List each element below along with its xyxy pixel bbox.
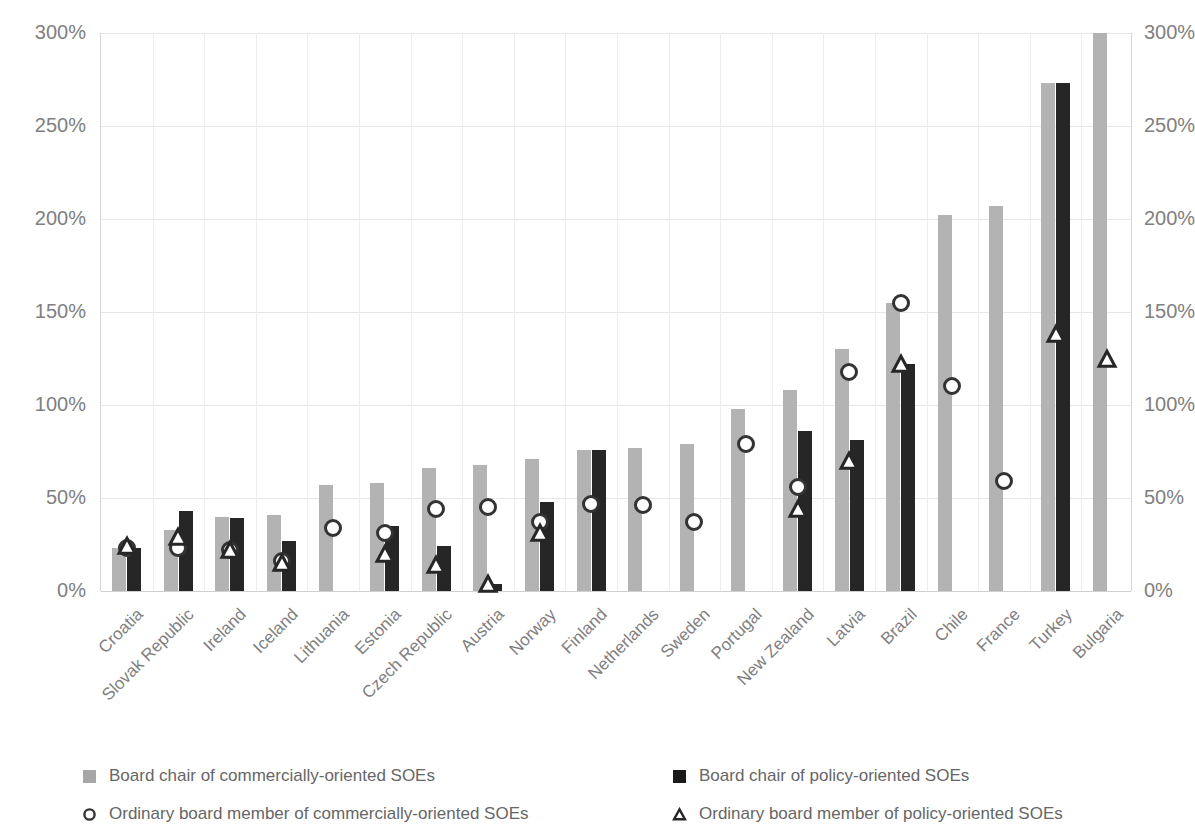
legend-item-label: Board chair of commercially-oriented SOE…	[109, 766, 435, 786]
marker-policy-member-triangle-icon	[890, 353, 912, 375]
legend-item[interactable]: Ordinary board member of commercially-or…	[78, 804, 528, 824]
bar-group	[359, 33, 411, 591]
gridline	[101, 591, 1131, 592]
legend-circle-icon	[82, 807, 97, 822]
chart-legend: Board chair of commercially-oriented SOE…	[0, 760, 1190, 838]
marker-commercial-member-circle-icon	[322, 517, 344, 539]
legend-item-label: Board chair of policy-oriented SOEs	[699, 766, 969, 786]
marker-commercial-member-circle-icon	[838, 361, 860, 383]
marker-policy-member-triangle-icon	[374, 543, 396, 565]
bar-policy-chair	[592, 450, 606, 591]
marker-policy-member-triangle-icon	[529, 522, 551, 544]
bar-group	[669, 33, 721, 591]
y-axis-tick-label-left: 50%	[0, 487, 86, 507]
bar-group	[1030, 33, 1082, 591]
marker-commercial-member-circle-icon	[787, 476, 809, 498]
y-axis-tick-label-right: 150%	[1144, 301, 1195, 321]
marker-commercial-member-circle-icon	[580, 493, 602, 515]
y-axis-tick-label-right: 50%	[1144, 487, 1184, 507]
marker-policy-member-triangle-icon	[838, 450, 860, 472]
bar-commercial-chair	[989, 206, 1003, 591]
legend-item-label: Ordinary board member of policy-oriented…	[699, 804, 1063, 824]
marker-policy-member-triangle-icon	[271, 552, 293, 574]
marker-commercial-member-circle-icon	[632, 494, 654, 516]
marker-commercial-member-circle-icon	[477, 496, 499, 518]
marker-policy-member-triangle-icon	[167, 526, 189, 548]
bar-group	[153, 33, 205, 591]
bar-policy-chair	[901, 364, 915, 591]
marker-policy-member-triangle-icon	[425, 554, 447, 576]
bar-commercial-chair	[577, 450, 591, 591]
marker-policy-member-triangle-icon	[219, 539, 241, 561]
legend-item[interactable]: Board chair of commercially-oriented SOE…	[78, 766, 435, 786]
marker-policy-member-triangle-icon	[116, 535, 138, 557]
legend-item[interactable]: Ordinary board member of policy-oriented…	[668, 804, 1063, 824]
marker-policy-member-triangle-icon	[477, 573, 499, 595]
bar-group	[101, 33, 153, 591]
marker-commercial-member-circle-icon	[941, 375, 963, 397]
y-axis-tick-label-left: 100%	[0, 394, 86, 414]
y-axis-tick-label-left: 200%	[0, 208, 86, 228]
marker-policy-member-triangle-icon	[787, 498, 809, 520]
bar-commercial-chair	[628, 448, 642, 591]
plot-area	[100, 33, 1132, 591]
legend-item[interactable]: Board chair of policy-oriented SOEs	[668, 766, 969, 786]
y-axis-tick-label-left: 150%	[0, 301, 86, 321]
marker-commercial-member-circle-icon	[993, 470, 1015, 492]
bar-group	[514, 33, 566, 591]
legend-square-light-icon	[83, 770, 96, 783]
bar-group	[875, 33, 927, 591]
bar-group	[565, 33, 617, 591]
bar-commercial-chair	[938, 215, 952, 591]
bar-group	[720, 33, 772, 591]
bar-group	[772, 33, 824, 591]
legend-square-dark-icon	[673, 770, 686, 783]
legend-marker	[668, 804, 690, 824]
bar-commercial-chair	[886, 303, 900, 591]
marker-commercial-member-circle-icon	[735, 433, 757, 455]
y-axis-tick-label-right: 0%	[1144, 580, 1173, 600]
bar-group	[204, 33, 256, 591]
legend-marker	[668, 766, 690, 786]
bar-group	[256, 33, 308, 591]
legend-item-label: Ordinary board member of commercially-or…	[109, 804, 528, 824]
marker-policy-member-triangle-icon	[1045, 323, 1067, 345]
marker-commercial-member-circle-icon	[374, 522, 396, 544]
bar-group	[1081, 33, 1133, 591]
marker-commercial-member-circle-icon	[890, 292, 912, 314]
bar-group	[411, 33, 463, 591]
bar-commercial-chair	[1093, 33, 1107, 591]
y-axis-tick-label-right: 200%	[1144, 208, 1195, 228]
y-axis-tick-label-right: 300%	[1144, 22, 1195, 42]
y-axis-tick-label-left: 0%	[0, 580, 86, 600]
legend-marker	[78, 804, 100, 824]
bar-group	[462, 33, 514, 591]
marker-policy-member-triangle-icon	[1096, 348, 1118, 370]
bar-group	[823, 33, 875, 591]
bar-group	[617, 33, 669, 591]
marker-commercial-member-circle-icon	[425, 498, 447, 520]
marker-commercial-member-circle-icon	[683, 511, 705, 533]
y-axis-tick-label-left: 300%	[0, 22, 86, 42]
bar-group	[927, 33, 979, 591]
y-axis-tick-label-right: 250%	[1144, 115, 1195, 135]
bar-group	[307, 33, 359, 591]
y-axis-tick-label-right: 100%	[1144, 394, 1195, 414]
legend-marker	[78, 766, 100, 786]
bar-group	[978, 33, 1030, 591]
legend-triangle-icon	[672, 807, 687, 822]
y-axis-tick-label-left: 250%	[0, 115, 86, 135]
